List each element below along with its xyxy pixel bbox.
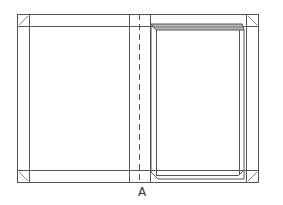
outer-frame — [18, 15, 259, 183]
corner-miter-marks — [19, 16, 257, 181]
book-case-diagram — [0, 0, 283, 205]
figure-label: A — [134, 185, 150, 199]
book-block — [151, 24, 244, 179]
diagram-canvas: A — [0, 0, 283, 205]
